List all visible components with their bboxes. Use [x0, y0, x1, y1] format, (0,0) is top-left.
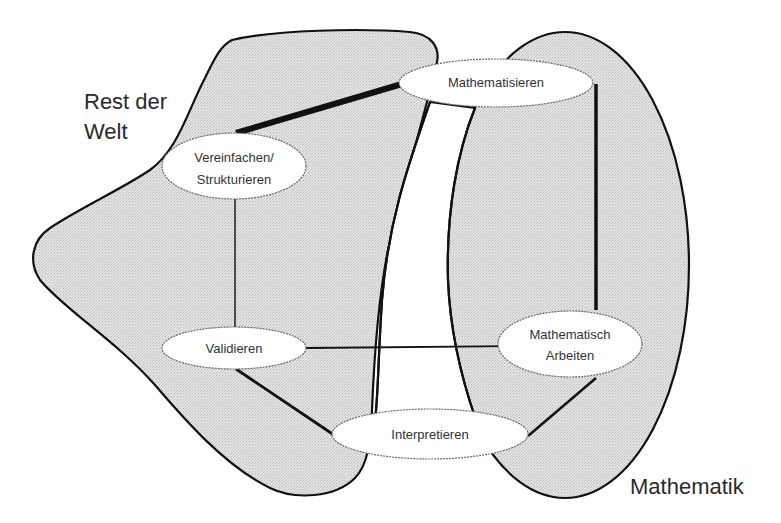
node-label-arbeiten: Arbeiten — [546, 348, 594, 363]
node-label-mathematisch: Mathematisch — [530, 327, 611, 342]
region-label-rest-der-line1: Rest der — [84, 89, 167, 114]
node-label-interpretieren: Interpretieren — [391, 427, 468, 442]
node-label-strukturieren: Strukturieren — [197, 172, 271, 187]
node-mathematisch-arbeiten: Mathematisch Arbeiten — [498, 311, 642, 377]
modelling-cycle-diagram: Mathematisieren Vereinfachen/ Strukturie… — [0, 0, 781, 523]
node-label-mathematisieren: Mathematisieren — [448, 75, 544, 90]
region-label-mathematik: Mathematik — [630, 474, 745, 499]
node-label-validieren: Validieren — [206, 341, 263, 356]
node-label-vereinfachen: Vereinfachen/ — [194, 150, 274, 165]
region-label-welt-line2: Welt — [84, 119, 128, 144]
node-interpretieren: Interpretieren — [332, 409, 528, 459]
node-vereinfachen-strukturieren: Vereinfachen/ Strukturieren — [162, 133, 306, 199]
node-validieren: Validieren — [162, 327, 306, 369]
node-mathematisieren: Mathematisieren — [399, 59, 593, 107]
